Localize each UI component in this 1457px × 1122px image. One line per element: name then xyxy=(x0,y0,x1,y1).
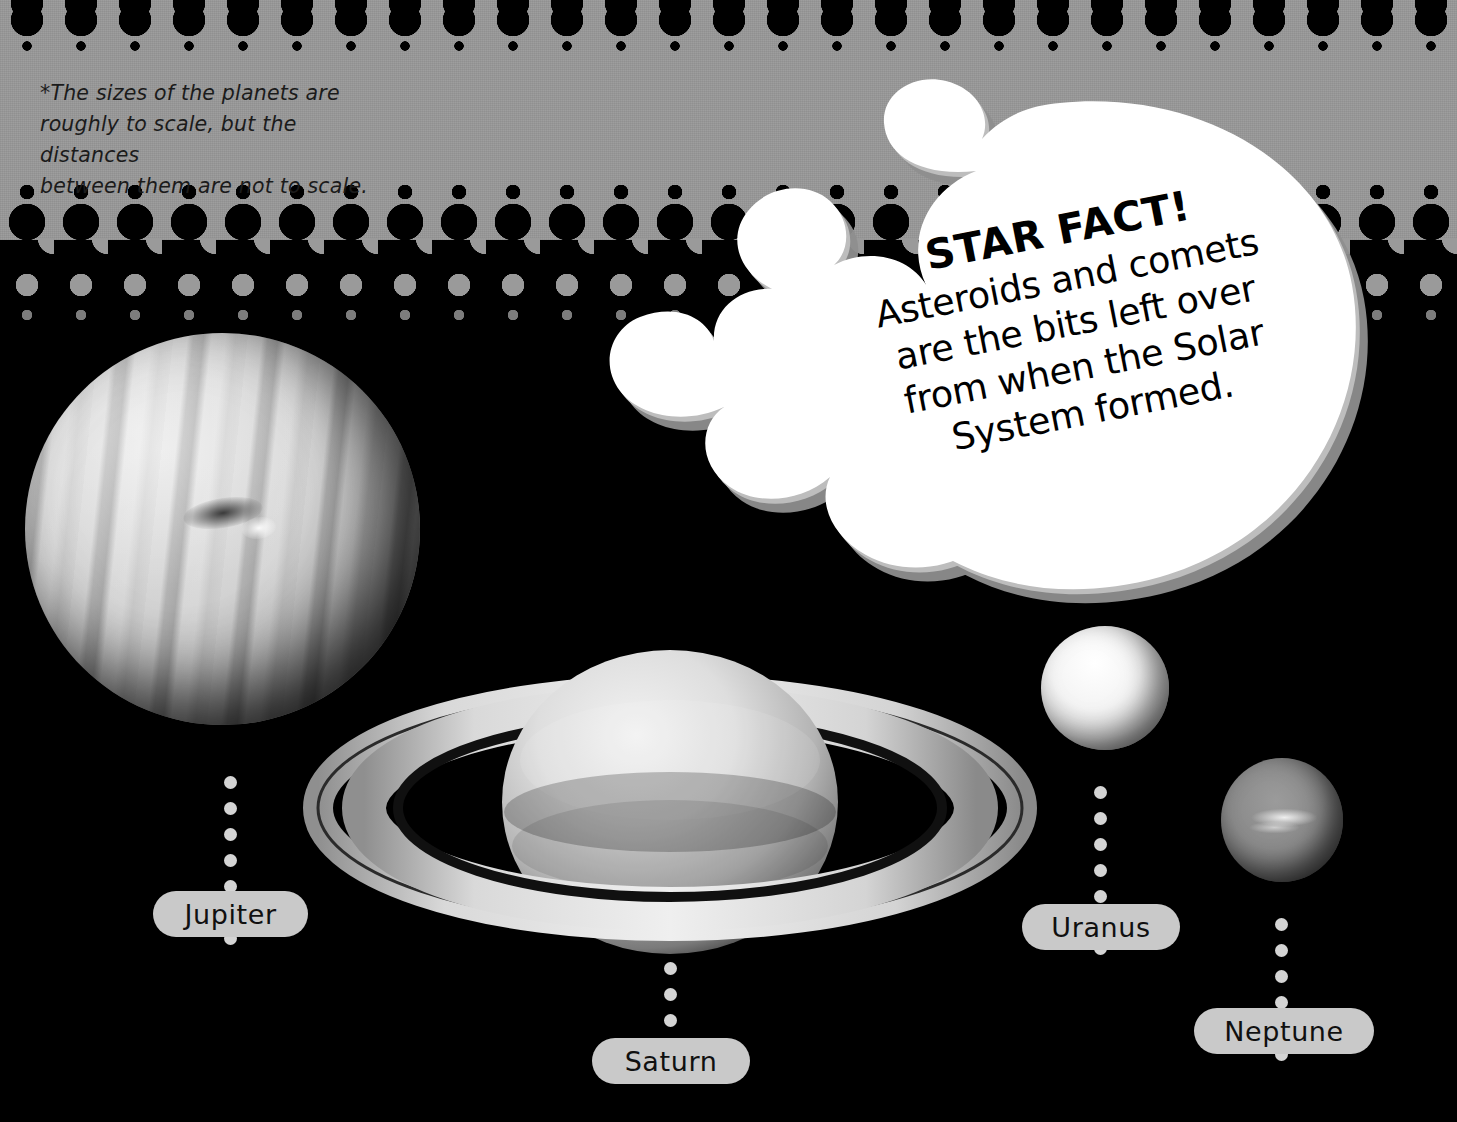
planet-label-saturn[interactable]: Saturn xyxy=(592,1038,750,1084)
leader-dot xyxy=(1094,890,1107,903)
planet-neptune-icon xyxy=(1221,758,1343,882)
leader-dot xyxy=(664,988,677,1001)
planet-saturn-icon xyxy=(300,640,1040,970)
leader-dot xyxy=(664,962,677,975)
leader-dot xyxy=(224,828,237,841)
saturn-ring-shadow xyxy=(504,772,836,852)
footnote-line-1: *The sizes of the planets are xyxy=(40,78,400,109)
planet-label-uranus[interactable]: Uranus xyxy=(1022,904,1180,950)
leader-dot xyxy=(1094,812,1107,825)
leader-dot xyxy=(664,1014,677,1027)
leader-dot xyxy=(1094,864,1107,877)
planet-label-jupiter[interactable]: Jupiter xyxy=(153,891,308,937)
leader-dot xyxy=(224,776,237,789)
footnote-line-2: roughly to scale, but the distances xyxy=(40,109,400,171)
footnote-line-3: between them are not to scale. xyxy=(40,171,400,202)
leader-dot xyxy=(1094,838,1107,851)
leader-dot xyxy=(224,854,237,867)
scale-footnote: *The sizes of the planets are roughly to… xyxy=(40,78,400,202)
leader-dot xyxy=(1275,944,1288,957)
leader-dot xyxy=(1275,918,1288,931)
leader-dot xyxy=(1094,786,1107,799)
planet-label-neptune[interactable]: Neptune xyxy=(1194,1008,1374,1054)
solar-system-page: *The sizes of the planets are roughly to… xyxy=(0,0,1457,1122)
leader-dot xyxy=(224,802,237,815)
planet-uranus-icon xyxy=(1041,626,1169,750)
leader-dot xyxy=(1275,970,1288,983)
